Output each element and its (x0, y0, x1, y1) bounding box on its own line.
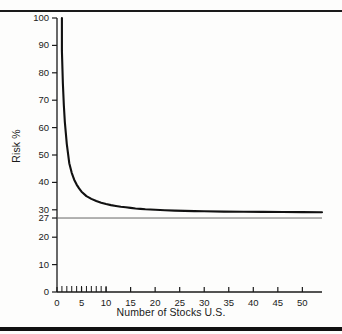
risk-diversification-chart (0, 0, 342, 334)
y-tick-label: 100 (23, 12, 49, 23)
y-tick-label: 10 (23, 259, 49, 270)
y-tick-label: 50 (23, 149, 49, 160)
portfolio-risk-curve (62, 18, 322, 212)
y-axis-ticks (52, 18, 57, 292)
y-tick-label: 60 (23, 122, 49, 133)
y-axis-title: Risk % (10, 116, 22, 176)
x-axis-ticks (57, 287, 302, 292)
y-tick-label: 80 (23, 67, 49, 78)
x-axis-title: Number of Stocks U.S. (0, 306, 342, 318)
y-tick-label: 0 (23, 286, 49, 297)
y-tick-label: 70 (23, 94, 49, 105)
x-axis-minor-ticks (62, 286, 106, 292)
figure-container: 010202730405060708090100 051015202530354… (0, 0, 342, 334)
y-tick-label: 30 (23, 204, 49, 215)
y-tick-label: 20 (23, 231, 49, 242)
y-tick-label: 40 (23, 176, 49, 187)
y-tick-label: 90 (23, 39, 49, 50)
